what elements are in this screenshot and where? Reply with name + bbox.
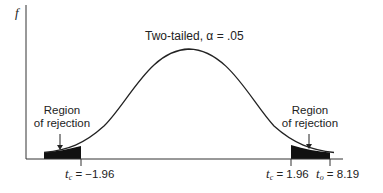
right-region-line1: Region (280, 104, 340, 117)
right-region-label: Region of rejection (280, 104, 340, 130)
to-value: = 8.19 (324, 168, 360, 180)
tc-right-value: = 1.96 (273, 168, 309, 180)
left-rejection-region (44, 146, 81, 159)
to-label: to = 8.19 (316, 167, 359, 184)
tc-right-label: tc = 1.96 (266, 167, 309, 184)
left-region-label: Region of rejection (32, 104, 92, 130)
chart-title: Two-tailed, α = .05 (145, 30, 244, 43)
tc-left-value: = −1.96 (72, 168, 114, 180)
right-region-line2: of rejection (280, 117, 340, 130)
left-region-line1: Region (32, 104, 92, 117)
left-region-line2: of rejection (32, 117, 92, 130)
tc-left-label: tc = −1.96 (65, 167, 114, 184)
distribution-curve (44, 49, 334, 153)
y-axis-label: f (15, 6, 19, 19)
